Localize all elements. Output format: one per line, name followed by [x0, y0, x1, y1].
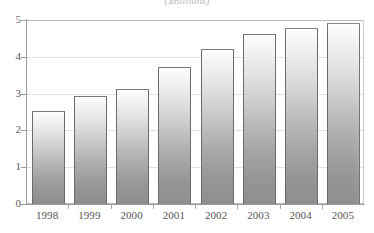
- bar: [285, 28, 318, 205]
- y-axis-tick: [21, 167, 26, 168]
- x-axis-tick-label: 2003: [237, 210, 279, 221]
- bar: [201, 49, 234, 205]
- chart-title: ($Billions): [0, 0, 374, 6]
- bar: [74, 96, 107, 205]
- x-axis-tick: [68, 205, 69, 209]
- y-axis-tick-label: 4: [0, 51, 21, 62]
- y-axis-line: [26, 19, 27, 205]
- plot-area: [26, 20, 364, 204]
- y-axis-tick: [21, 20, 26, 21]
- bar: [243, 34, 276, 205]
- bar: [158, 67, 191, 205]
- y-axis-tick-label: 1: [0, 161, 21, 172]
- y-axis-tick: [21, 94, 26, 95]
- bar: [32, 111, 65, 205]
- y-axis-tick: [21, 57, 26, 58]
- x-axis-tick: [237, 205, 238, 209]
- y-axis-tick-label: 2: [0, 124, 21, 135]
- x-axis-tick-label: 2001: [153, 210, 195, 221]
- x-axis-tick-label: 2005: [322, 210, 364, 221]
- x-axis-tick: [322, 205, 323, 209]
- y-axis-tick-label: 5: [0, 14, 21, 25]
- x-axis-tick-label: 1999: [68, 210, 110, 221]
- x-axis-tick-label: 2004: [280, 210, 322, 221]
- x-axis-tick: [280, 205, 281, 209]
- y-axis-tick: [21, 130, 26, 131]
- bar: [116, 89, 149, 205]
- x-axis-tick-label: 2000: [111, 210, 153, 221]
- y-axis-tick-label: 0: [0, 198, 21, 209]
- bar: [327, 23, 360, 205]
- bar-chart-figure: ($Billions) 012345 199819992000200120022…: [0, 0, 374, 233]
- y-axis-tick-label: 3: [0, 88, 21, 99]
- x-axis-tick: [111, 205, 112, 209]
- x-axis-tick-label: 1998: [26, 210, 68, 221]
- x-axis-tick: [195, 205, 196, 209]
- x-axis-tick-label: 2002: [195, 210, 237, 221]
- x-axis-tick: [153, 205, 154, 209]
